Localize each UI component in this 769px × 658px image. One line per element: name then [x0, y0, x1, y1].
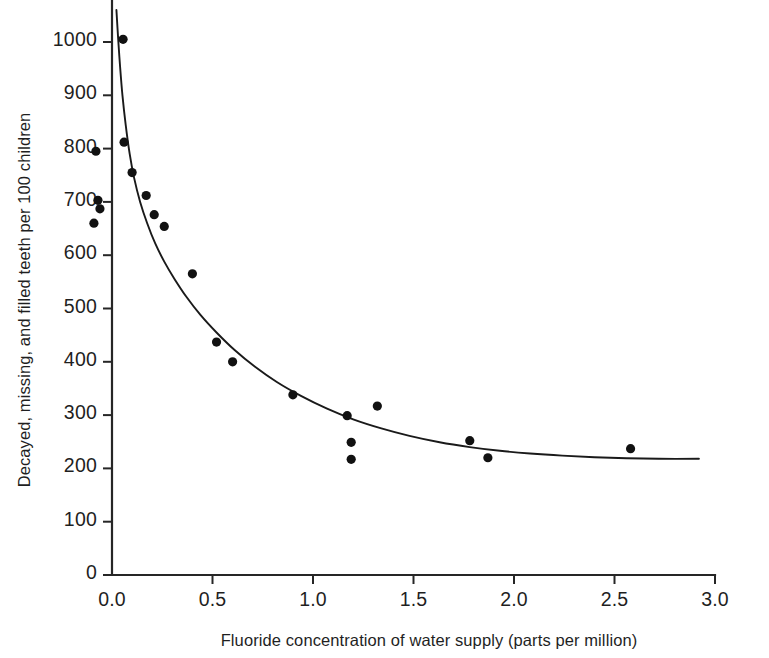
y-tick-label: 600	[64, 241, 97, 263]
y-tick-label: 700	[64, 188, 97, 210]
data-point	[91, 147, 100, 156]
data-point	[465, 436, 474, 445]
data-point	[119, 138, 128, 147]
data-point	[188, 269, 197, 278]
data-point	[347, 438, 356, 447]
x-tick-label: 2.0	[500, 588, 528, 610]
data-point	[93, 196, 102, 205]
chart-background	[0, 0, 769, 658]
x-tick-label: 1.0	[299, 588, 327, 610]
data-point	[288, 390, 297, 399]
x-tick-label: 0.5	[199, 588, 227, 610]
x-tick-label: 1.5	[400, 588, 428, 610]
x-tick-label: 2.5	[601, 588, 629, 610]
y-tick-label: 300	[64, 401, 97, 423]
y-tick-label: 500	[64, 295, 97, 317]
y-tick-label: 400	[64, 348, 97, 370]
data-point	[343, 411, 352, 420]
scatter-plot-figure: 01002003004005006007008009001000 0.00.51…	[0, 0, 769, 658]
data-point	[626, 444, 635, 453]
data-point	[150, 210, 159, 219]
data-point	[89, 219, 98, 228]
data-point	[212, 337, 221, 346]
y-tick-label: 100	[64, 508, 97, 530]
data-point	[373, 401, 382, 410]
data-point	[483, 453, 492, 462]
y-tick-label: 200	[64, 454, 97, 476]
chart-canvas: 01002003004005006007008009001000 0.00.51…	[0, 0, 769, 658]
x-axis-title: Fluoride concentration of water supply (…	[221, 631, 638, 649]
y-axis-title: Decayed, missing, and filled teeth per 1…	[15, 113, 33, 488]
data-point	[95, 204, 104, 213]
y-tick-label: 1000	[53, 28, 97, 50]
y-tick-label: 900	[64, 81, 97, 103]
data-point	[118, 35, 127, 44]
data-point	[160, 222, 169, 231]
x-tick-label: 0.0	[98, 588, 126, 610]
data-point	[128, 168, 137, 177]
data-point	[142, 191, 151, 200]
data-point	[347, 455, 356, 464]
y-tick-label: 0	[86, 561, 97, 583]
data-point	[228, 357, 237, 366]
x-tick-label: 3.0	[701, 588, 729, 610]
